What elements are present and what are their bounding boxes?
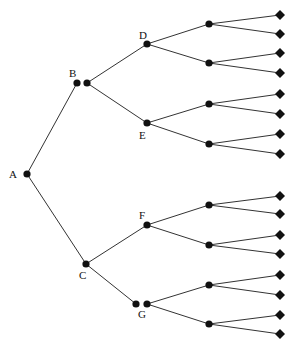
- terminal-node-diamond-icon: [275, 310, 285, 320]
- edge-E2-L7: [209, 134, 280, 144]
- node-label-F: F: [139, 209, 145, 221]
- edge-F-F2: [147, 225, 209, 245]
- edge-E-E1: [147, 104, 209, 123]
- terminal-node-diamond-icon: [275, 209, 285, 219]
- edge-layer: [27, 15, 280, 334]
- decision-node-D: [143, 40, 150, 47]
- node-layer: [23, 10, 285, 339]
- edge-D-D1: [147, 24, 209, 44]
- terminal-node-diamond-icon: [275, 109, 285, 119]
- decision-node-C: [82, 260, 89, 267]
- decision-node-E: [143, 119, 150, 126]
- edge-G2-G4: [147, 304, 209, 324]
- terminal-node-diamond-icon: [275, 149, 285, 159]
- terminal-node-diamond-icon: [275, 290, 285, 300]
- edge-G4-L15: [209, 315, 280, 324]
- decision-node-D2: [205, 59, 212, 66]
- node-label-G: G: [138, 308, 146, 320]
- terminal-node-diamond-icon: [275, 48, 285, 58]
- terminal-node-diamond-icon: [275, 89, 285, 99]
- edge-D-D2: [147, 44, 209, 63]
- edge-F2-L11: [209, 235, 280, 245]
- decision-node-G4: [205, 320, 212, 327]
- edge-F-F1: [147, 205, 209, 225]
- edge-C-G1: [86, 264, 136, 304]
- decision-node-F1: [205, 201, 212, 208]
- edge-F1-L9: [209, 196, 280, 205]
- edge-A-C: [27, 174, 86, 264]
- edge-D2-L4: [209, 63, 280, 73]
- edge-E-E2: [147, 123, 209, 144]
- tree-svg: ABCDEFG: [0, 0, 293, 352]
- decision-node-F2: [205, 241, 212, 248]
- terminal-node-diamond-icon: [275, 29, 285, 39]
- edge-G3-L13: [209, 275, 280, 285]
- edge-A-B1: [27, 83, 77, 174]
- decision-node-F: [143, 221, 150, 228]
- terminal-node-diamond-icon: [275, 230, 285, 240]
- decision-node-G3: [205, 281, 212, 288]
- terminal-node-diamond-icon: [275, 129, 285, 139]
- node-label-B: B: [69, 67, 76, 79]
- edge-E1-L6: [209, 104, 280, 114]
- decision-node-A: [23, 170, 30, 177]
- terminal-node-diamond-icon: [275, 10, 285, 20]
- decision-node-B2: [83, 79, 90, 86]
- terminal-node-diamond-icon: [275, 68, 285, 78]
- terminal-node-diamond-icon: [275, 249, 285, 259]
- terminal-node-diamond-icon: [275, 329, 285, 339]
- node-label-E: E: [139, 129, 146, 141]
- node-label-D: D: [139, 29, 147, 41]
- edge-F1-L10: [209, 205, 280, 214]
- terminal-node-diamond-icon: [275, 191, 285, 201]
- edge-C-F: [86, 225, 147, 264]
- decision-node-D1: [205, 20, 212, 27]
- decision-node-G2: [143, 300, 150, 307]
- edge-B2-E: [87, 83, 147, 123]
- game-tree-diagram: ABCDEFG: [0, 0, 293, 352]
- edge-F2-L12: [209, 245, 280, 254]
- decision-node-B1: [73, 79, 80, 86]
- node-label-C: C: [79, 269, 86, 281]
- node-label-A: A: [9, 168, 17, 180]
- terminal-node-diamond-icon: [275, 270, 285, 280]
- edge-E1-L5: [209, 94, 280, 104]
- edge-G3-L14: [209, 285, 280, 295]
- decision-node-G1: [132, 300, 139, 307]
- decision-node-E2: [205, 140, 212, 147]
- edge-G2-G3: [147, 285, 209, 304]
- decision-node-E1: [205, 100, 212, 107]
- edge-G4-L16: [209, 324, 280, 334]
- edge-E2-L8: [209, 144, 280, 154]
- edge-D1-L2: [209, 24, 280, 34]
- edge-B2-D: [87, 44, 147, 83]
- edge-D1-L1: [209, 15, 280, 24]
- edge-D2-L3: [209, 53, 280, 63]
